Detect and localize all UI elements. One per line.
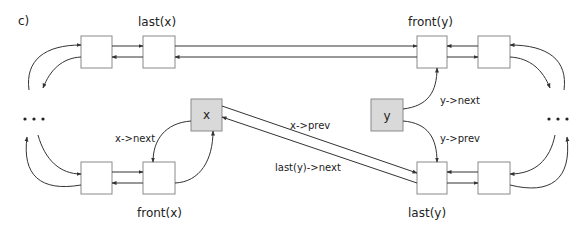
- edge-left-bottom-in: [38, 135, 81, 174]
- node-last-y: [417, 162, 447, 194]
- node-x-label: x: [203, 108, 210, 122]
- edge-left-top-in: [28, 45, 81, 90]
- node-top-right-2: [478, 36, 510, 68]
- edge-x-next: [153, 121, 191, 162]
- label-x-prev: x->prev: [290, 120, 330, 131]
- node-top-left-1: [81, 36, 112, 68]
- label-x-next: x->next: [115, 133, 155, 144]
- caption-front-x: front(x): [137, 206, 182, 220]
- panel-label: c): [18, 14, 29, 28]
- edge-y-prev: [403, 121, 437, 162]
- edge-front-x-to-x: [175, 131, 213, 183]
- edge-left-bottom-out: [26, 137, 81, 187]
- node-y-label: y: [383, 109, 390, 123]
- caption-front-y: front(y): [408, 15, 453, 29]
- edge-left-top-out: [43, 57, 81, 88]
- label-y-next: y->next: [440, 95, 480, 106]
- ellipsis-right: [547, 117, 568, 120]
- edge-y-next: [403, 68, 437, 109]
- caption-last-y: last(y): [408, 206, 446, 220]
- label-y-prev: y->prev: [440, 133, 480, 144]
- edge-right-bottom-in: [510, 135, 555, 174]
- node-front-y: [417, 36, 447, 68]
- ellipsis-left: [23, 117, 44, 120]
- node-bottom-left-1: [81, 162, 112, 194]
- node-front-x: [143, 162, 175, 194]
- node-bottom-right-2: [478, 162, 510, 194]
- edge-right-top-out: [510, 57, 550, 88]
- caption-last-x: last(x): [138, 15, 176, 29]
- label-last-y-next: last(y)->next: [275, 162, 341, 173]
- edge-right-bottom-out: [510, 137, 568, 188]
- node-last-x: [143, 36, 175, 68]
- linked-list-diagram: c) last(x) front(y) front(x) last(y) x y: [0, 0, 587, 229]
